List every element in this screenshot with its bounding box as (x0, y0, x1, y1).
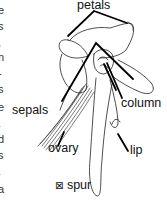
label-spur: spur (67, 178, 91, 192)
label-sepals: sepals (12, 103, 48, 117)
left-petal-outline (59, 40, 88, 58)
label-spur-group: ⊠ spur (55, 178, 91, 193)
column-leader-line-2 (107, 63, 122, 98)
left-sepal-outline (60, 54, 87, 93)
dorsal-petal-outline (70, 23, 134, 58)
boxed-x-icon: ⊠ (55, 180, 63, 191)
label-petals: petals (77, 0, 110, 12)
label-ovary: ovary (48, 141, 79, 155)
spur-outline (89, 78, 112, 196)
petals-leader-line (68, 11, 127, 36)
label-column: column (121, 96, 161, 110)
label-lip: lip (130, 143, 143, 157)
lip-leader-line (118, 134, 128, 151)
